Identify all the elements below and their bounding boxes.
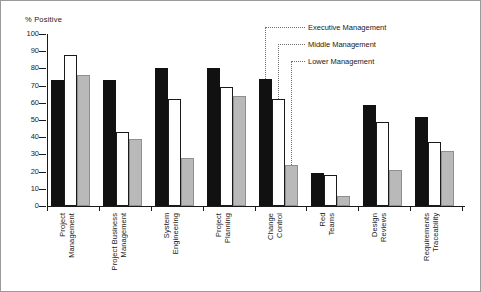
bar-mid	[376, 122, 389, 206]
x-axis-category-label: Project Planning	[215, 213, 232, 243]
y-axis-tick	[39, 68, 46, 69]
x-axis-category-label: Design Reviews	[371, 213, 388, 242]
bar-exec	[363, 105, 376, 206]
bar-mid	[324, 175, 337, 206]
y-axis-tick	[39, 34, 46, 35]
y-axis-tick	[39, 120, 46, 121]
bar-low	[129, 139, 142, 206]
y-axis-tick-label: 0	[13, 202, 39, 209]
bar-exec	[207, 68, 220, 206]
y-axis-tick	[39, 51, 46, 52]
y-axis-tick-label: 40	[13, 133, 39, 140]
bar-group	[207, 34, 246, 206]
legend-label-exec: Executive Management	[308, 23, 386, 32]
x-axis-tick	[410, 206, 411, 211]
legend-leader-vertical	[291, 61, 292, 165]
bar-group	[103, 34, 142, 206]
y-axis-tick-label: 10	[13, 185, 39, 192]
x-axis-line	[47, 206, 465, 207]
legend-leader-horizontal	[278, 44, 305, 45]
bar-mid	[428, 142, 441, 206]
bar-group	[415, 34, 454, 206]
bar-exec	[415, 117, 428, 206]
legend-leader-horizontal	[291, 61, 305, 62]
y-axis-tick-label: 50	[13, 116, 39, 123]
bar-low	[389, 170, 402, 206]
x-axis-tick	[203, 206, 204, 211]
bar-mid	[168, 99, 181, 206]
y-axis-tick-label: 80	[13, 64, 39, 71]
legend-label-low: Lower Management	[308, 57, 374, 66]
bar-exec	[103, 80, 116, 206]
bar-exec	[311, 173, 324, 206]
legend-label-mid: Middle Management	[308, 40, 376, 49]
bar-mid	[272, 99, 285, 206]
bar-low	[441, 151, 454, 206]
x-axis-category-label: System Engineering	[163, 213, 180, 254]
y-axis-tick-label: 90	[13, 47, 39, 54]
legend-leader-horizontal	[265, 27, 305, 28]
y-axis-tick-label: 100	[13, 30, 39, 37]
bar-mid	[220, 87, 233, 206]
bar-low	[181, 158, 194, 206]
bar-group	[51, 34, 90, 206]
y-axis-tick	[39, 206, 46, 207]
bar-exec	[259, 79, 272, 206]
x-axis-category-label: Requirements Traceability	[423, 213, 440, 261]
x-axis-tick	[151, 206, 152, 211]
y-axis-tick	[39, 86, 46, 87]
x-axis-tick	[47, 206, 48, 211]
y-axis-tick	[39, 172, 46, 173]
x-axis-tick	[306, 206, 307, 211]
bar-exec	[155, 68, 168, 206]
bar-low	[285, 165, 298, 206]
y-axis-title: % Positive	[25, 15, 62, 24]
chart-figure: % Positive 0102030405060708090100 Projec…	[0, 0, 481, 292]
y-axis-tick	[39, 154, 46, 155]
x-axis-tick	[99, 206, 100, 211]
x-axis-category-label: Change Control	[267, 213, 284, 240]
plot-area: 0102030405060708090100	[47, 34, 462, 206]
bar-low	[337, 196, 350, 206]
x-axis-tick	[358, 206, 359, 211]
legend-leader-vertical	[265, 27, 266, 79]
bar-mid	[116, 132, 129, 206]
y-axis-tick-label: 30	[13, 150, 39, 157]
bar-low	[233, 96, 246, 206]
y-axis-tick	[39, 189, 46, 190]
bar-mid	[64, 55, 77, 206]
y-axis-tick-label: 70	[13, 82, 39, 89]
y-axis-tick	[39, 137, 46, 138]
bar-low	[77, 75, 90, 206]
y-axis-tick-label: 60	[13, 99, 39, 106]
bar-exec	[51, 80, 64, 206]
x-axis-category-label: Project Business Management	[111, 213, 128, 270]
y-axis-tick	[39, 103, 46, 104]
x-axis-tick	[255, 206, 256, 211]
bar-group	[155, 34, 194, 206]
legend-leader-vertical	[278, 44, 279, 99]
x-axis-category-label: Project Management	[59, 213, 76, 258]
x-axis-tick	[462, 206, 463, 211]
x-axis-category-label: Red Teams	[319, 213, 336, 236]
y-axis-tick-label: 20	[13, 168, 39, 175]
